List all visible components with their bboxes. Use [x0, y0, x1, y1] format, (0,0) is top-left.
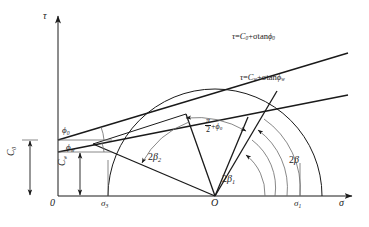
two-beta-2-label: 2β2: [148, 152, 161, 163]
two-beta-2-subscript: 2: [158, 156, 161, 163]
phi0-angle-subscript: 0: [220, 126, 222, 131]
eq1-rest: +σtan: [248, 31, 268, 41]
tau-axis-label: τ: [43, 11, 47, 21]
arc-two-beta-1: [246, 155, 265, 196]
c0-subscript: 0: [11, 147, 17, 150]
two-beta-label: 2β: [289, 155, 299, 165]
peak-failure-envelope-line: [58, 53, 348, 140]
arc-two-beta-1-outer: [252, 140, 276, 196]
phi-w-subscript: w: [71, 147, 75, 153]
arc-two-beta: [258, 130, 287, 196]
cw-intercept-label: Cw: [58, 156, 69, 166]
circle-center-label: O: [211, 198, 218, 208]
two-beta-1-subscript: 1: [232, 178, 235, 185]
arc-phi0: [101, 127, 104, 140]
origin-label: 0: [50, 198, 55, 208]
sigma3-tick-label: σ3: [101, 199, 108, 209]
phi-w-angle-label: ϕw: [66, 143, 74, 153]
c0-intercept-label: C0: [7, 147, 18, 156]
two-beta-1-label: 2β1: [222, 174, 235, 185]
cw-symbol: C: [57, 160, 67, 166]
phi0-angle-label: ϕ0: [62, 126, 69, 136]
sigma1-subscript: 1: [298, 203, 301, 209]
mohr-circle-diagram: τ σ 0 O σ3 σ1 τ=C0+σtanϕ0 τ=Cw+σtanϕw ϕ0…: [0, 0, 369, 227]
half-pi-plus-phi0-label: π 2 +ϕ0: [205, 117, 222, 134]
diagram-canvas: [0, 0, 369, 227]
eq1-phi-subscript: 0: [272, 35, 275, 41]
eq2-rest: +σtan: [257, 72, 277, 82]
sigma3-subscript: 3: [105, 203, 108, 209]
cw-subscript: w: [62, 156, 68, 160]
sigma1-tick-label: σ1: [294, 199, 301, 209]
phi0-subscript: 0: [67, 130, 70, 136]
eq2-phi-subscript: w: [281, 76, 285, 82]
residual-envelope-equation: τ=Cw+σtanϕw: [240, 73, 285, 83]
two-beta-symbol: β: [294, 154, 299, 165]
c0-symbol: C: [6, 150, 16, 156]
mohr-circle: [108, 89, 322, 196]
peak-envelope-equation: τ=C0+σtanϕ0: [232, 32, 275, 42]
residual-failure-envelope-line: [58, 95, 348, 152]
sigma-axis-label: σ: [339, 198, 344, 208]
